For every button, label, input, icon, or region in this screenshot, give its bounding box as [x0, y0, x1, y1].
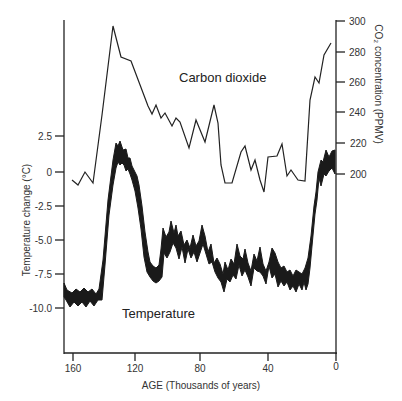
y2-tick-label: 280 [349, 47, 366, 58]
x-tick-label: 120 [127, 363, 144, 374]
y-tick-label: 2.5 [38, 131, 52, 142]
chart-canvas: 2.5 0 -2.5 -5.0 -7.5 -10.0 300 280 260 2… [0, 0, 402, 401]
y-axis-title: Temperature change (°C) [21, 164, 32, 276]
y2-tick-label: 300 [349, 16, 366, 27]
co2-series-label: Carbon dioxide [179, 70, 266, 85]
y2-tick-label: 260 [349, 77, 366, 88]
y-tick-label: 0 [46, 167, 52, 178]
y2-tick-label: 200 [350, 169, 367, 180]
x-tick-label: 0 [333, 361, 339, 372]
x-axis-title: AGE (Thousands of years) [142, 380, 260, 391]
left-y-ticks [55, 136, 64, 308]
x-tick-label: 40 [262, 363, 274, 374]
y-tick-label: -7.5 [35, 269, 53, 280]
temperature-series-band [64, 141, 335, 307]
y2-tick-label: 220 [350, 138, 367, 149]
y-tick-label: -2.5 [35, 201, 53, 212]
co2-series-line [72, 26, 331, 192]
temperature-series-label: Temperature [122, 306, 195, 321]
y2-axis-title: CO₂ concentration (PPMV) [373, 24, 384, 143]
x-tick-label: 80 [194, 363, 206, 374]
right-y-ticks [336, 21, 345, 174]
x-ticks [73, 353, 336, 361]
y-tick-label: -10.0 [29, 303, 52, 314]
y2-tick-label: 240 [349, 107, 366, 118]
y-tick-label: -5.0 [35, 235, 53, 246]
x-tick-label: 160 [65, 363, 82, 374]
